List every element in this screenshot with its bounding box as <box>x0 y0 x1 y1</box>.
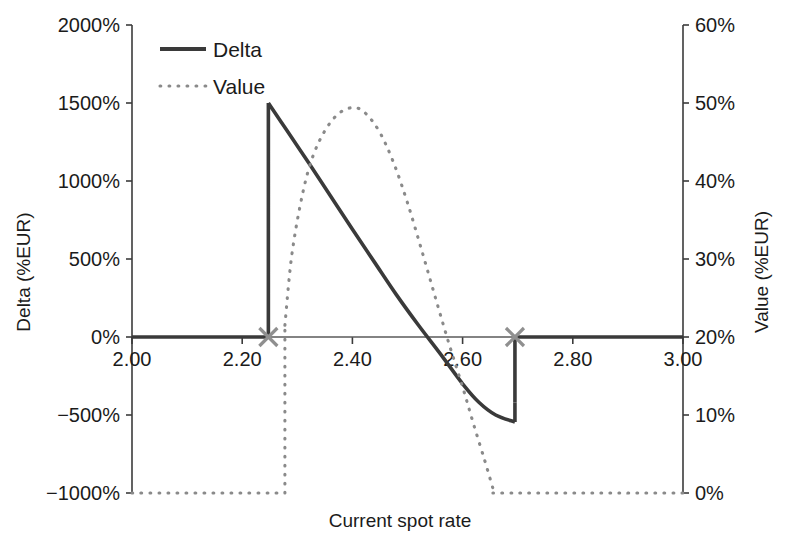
x-axis-tick-label: 2.80 <box>553 348 592 370</box>
left-axis-tick-label: 2000% <box>58 14 120 36</box>
y-axis-right-title: Value (%EUR) <box>751 211 772 333</box>
left-axis-tick-label: 1000% <box>58 170 120 192</box>
x-axis-tick-label: 3.00 <box>664 348 703 370</box>
x-axis-tick-label: 2.00 <box>113 348 152 370</box>
right-axis-tick-label: 0% <box>695 482 724 504</box>
right-axis-tick-label: 30% <box>695 248 735 270</box>
right-axis-tick-label: 50% <box>695 92 735 114</box>
chart-svg: 2000%1500%1000%500%0%−500%−1000% 60%50%4… <box>0 0 794 545</box>
legend-label-delta: Delta <box>213 38 262 61</box>
left-axis-tick-label: −500% <box>57 404 120 426</box>
left-axis-tick-label: −1000% <box>46 482 120 504</box>
right-axis-tick-label: 10% <box>695 404 735 426</box>
right-axis-tick-label: 20% <box>695 326 735 348</box>
y-axis-left-title: Delta (%EUR) <box>13 212 34 331</box>
left-axis-tick-label: 0% <box>91 326 120 348</box>
plot-background <box>0 0 794 545</box>
x-axis-title: Current spot rate <box>329 510 472 531</box>
right-axis-tick-label: 60% <box>695 14 735 36</box>
chart-container: 2000%1500%1000%500%0%−500%−1000% 60%50%4… <box>0 0 794 545</box>
x-axis-tick-label: 2.20 <box>223 348 262 370</box>
x-axis-tick-label: 2.40 <box>333 348 372 370</box>
legend-label-value: Value <box>213 75 265 98</box>
right-axis-tick-label: 40% <box>695 170 735 192</box>
left-axis-tick-label: 500% <box>69 248 120 270</box>
left-axis-tick-label: 1500% <box>58 92 120 114</box>
